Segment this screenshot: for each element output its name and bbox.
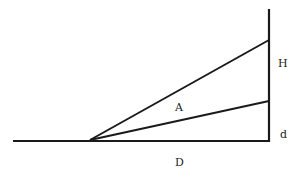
geometry-diagram: H A d D [0,0,303,179]
label-A: A [174,101,184,114]
label-D: D [175,156,184,169]
label-H: H [278,57,288,70]
label-d: d [280,128,287,141]
upper-sight-line [90,40,269,140]
